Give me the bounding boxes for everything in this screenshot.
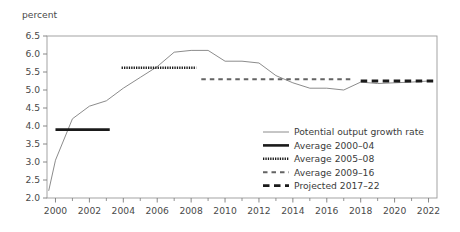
x-tick-label: 2018 xyxy=(349,205,373,216)
x-tick-label: 2000 xyxy=(44,205,68,216)
legend-label: Average 2005–08 xyxy=(294,153,374,164)
x-tick-label: 2016 xyxy=(315,205,339,216)
y-tick-label: 5.0 xyxy=(25,84,40,95)
legend-label: Potential output growth rate xyxy=(294,126,424,137)
x-tick-label: 2014 xyxy=(281,205,305,216)
y-tick-label: 4.0 xyxy=(25,120,40,131)
x-tick-label: 2020 xyxy=(383,205,407,216)
x-tick-label: 2012 xyxy=(247,205,270,216)
x-tick-label: 2006 xyxy=(146,205,170,216)
y-tick-label: 3.5 xyxy=(25,138,40,149)
x-tick-label: 2004 xyxy=(112,205,136,216)
y-tick-label: 6.0 xyxy=(25,48,40,59)
legend-label: Projected 2017–22 xyxy=(294,180,380,191)
x-tick-label: 2008 xyxy=(179,205,203,216)
chart-container: percent 2.02.53.03.54.04.55.05.56.06.5 2… xyxy=(0,0,460,232)
x-tick-label: 2022 xyxy=(417,205,440,216)
y-tick-label: 2.0 xyxy=(25,192,40,203)
legend-label: Average 2000–04 xyxy=(294,140,374,151)
potential-output-growth-chart: percent 2.02.53.03.54.04.55.05.56.06.5 2… xyxy=(0,0,460,232)
y-axis-title: percent xyxy=(22,9,58,20)
legend-label: Average 2009–16 xyxy=(294,167,374,178)
x-tick-label: 2002 xyxy=(78,205,101,216)
y-tick-label: 4.5 xyxy=(25,102,40,113)
y-tick-label: 3.0 xyxy=(25,156,40,167)
y-tick-label: 2.5 xyxy=(25,174,40,185)
y-tick-label: 5.5 xyxy=(25,66,40,77)
y-tick-label: 6.5 xyxy=(25,30,40,41)
chart-background xyxy=(0,0,460,232)
x-tick-label: 2010 xyxy=(213,205,237,216)
